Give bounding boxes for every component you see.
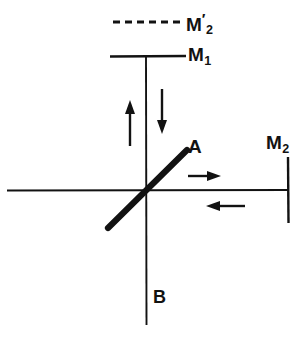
label-mirror-m2-virtual: M′2 [186,11,213,37]
mirror-m1-line [110,56,186,57]
arrow-right-icon [188,171,221,181]
arrow-up-icon [125,100,135,146]
arrow-left-icon [206,201,245,211]
mirror-m2-line [288,157,289,223]
interferometer-figure: M′2 M1 M2 A B [0,0,308,340]
label-mirror-m1: M1 [188,45,211,67]
beam-splitter-line [108,150,187,228]
label-mirror-m2: M2 [266,133,289,155]
label-output-beam: B [153,288,166,306]
label-beam-splitter: A [188,137,202,156]
arrow-down-icon [157,89,167,134]
